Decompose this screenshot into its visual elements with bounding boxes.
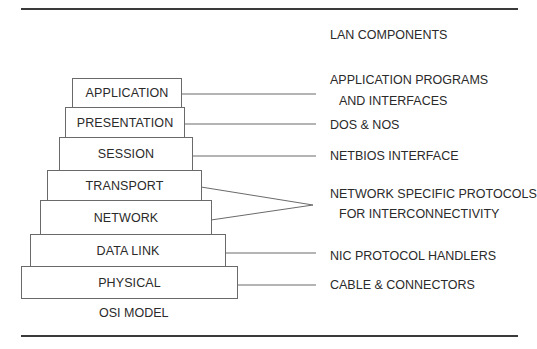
connector-network [211,205,313,220]
layer-transport: TRANSPORT [47,170,202,201]
component-network-protocols-line2: FOR INTERCONNECTIVITY [339,207,499,221]
layer-label: NETWORK [94,211,159,225]
component-nic-handlers: NIC PROTOCOL HANDLERS [330,249,496,263]
component-application-programs: APPLICATION PROGRAMS [330,73,488,87]
layer-presentation: PRESENTATION [65,107,185,138]
layer-application: APPLICATION [72,78,182,108]
layer-network: NETWORK [40,200,212,235]
layer-label: SESSION [98,147,154,161]
layer-label: DATA LINK [97,244,160,258]
layer-session: SESSION [59,137,193,171]
component-netbios: NETBIOS INTERFACE [330,149,459,163]
component-dos-nos: DOS & NOS [330,118,399,132]
osi-model-caption: OSI MODEL [99,306,168,320]
layer-physical: PHYSICAL [21,266,238,299]
component-network-protocols: NETWORK SPECIFIC PROTOCOLS [330,187,537,201]
component-cable-connectors: CABLE & CONNECTORS [330,278,475,292]
layer-label: PHYSICAL [98,276,161,290]
connector-transport [201,187,313,205]
layer-label: PRESENTATION [77,116,174,130]
component-application-programs-line2: AND INTERFACES [339,94,447,108]
layer-label: TRANSPORT [86,179,164,193]
layer-data-link: DATA LINK [30,234,226,267]
layer-label: APPLICATION [86,86,169,100]
